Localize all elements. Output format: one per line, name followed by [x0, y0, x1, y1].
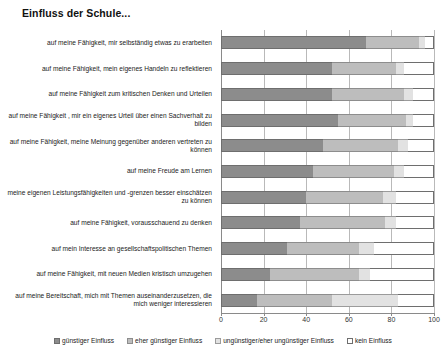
chart-title: Einfluss der Schule...	[22, 7, 130, 19]
bar-segment-series-3	[413, 88, 434, 101]
bar-segment-series-1	[332, 62, 396, 75]
bar-segment-series-3	[408, 139, 434, 152]
bar-segment-series-2	[394, 165, 405, 178]
legend-label: kein Einfluss	[355, 337, 392, 344]
bar-segment-series-0	[221, 62, 332, 75]
legend-label: günstiger Einfluss	[62, 337, 114, 344]
bar-segment-series-0	[221, 165, 313, 178]
stacked-bar[interactable]	[221, 294, 434, 307]
bar-segment-series-3	[398, 294, 434, 307]
bar-row: auf meine Fähigkeit, mir selbständig etw…	[0, 30, 434, 56]
bar-segment-series-3	[370, 268, 434, 281]
bar-segment-series-3	[404, 165, 434, 178]
legend-swatch-icon	[127, 338, 133, 344]
x-tick-label-60: 60	[345, 316, 353, 323]
legend-swatch-icon	[215, 338, 221, 344]
bar-segment-series-0	[221, 268, 270, 281]
bar-segment-series-2	[383, 191, 396, 204]
bar-row: auf meine Fähigkeit, mein eigenes Handel…	[0, 56, 434, 82]
bar-segment-series-2	[359, 268, 370, 281]
category-label: auf meine Freude am Lernen	[0, 167, 216, 175]
bar-container	[221, 216, 434, 229]
gridline-100	[434, 30, 435, 313]
bar-row: auf meine Fähigkeit zum kritischen Denke…	[0, 81, 434, 107]
category-label: auf meine Fähigkeit, mein eigenes Handel…	[0, 65, 216, 73]
stacked-bar[interactable]	[221, 268, 434, 281]
bar-segment-series-3	[413, 114, 434, 127]
legend-item-series-3[interactable]: kein Einfluss	[347, 337, 392, 344]
legend-swatch-icon	[347, 338, 353, 344]
bar-container	[221, 165, 434, 178]
category-label: auf meine Fähigkeit zum kritischen Denke…	[0, 90, 216, 98]
x-axis-line	[221, 313, 434, 314]
bar-segment-series-1	[306, 191, 383, 204]
x-tick-label-20: 20	[260, 316, 268, 323]
bar-segment-series-3	[425, 36, 434, 49]
bar-segment-series-1	[366, 36, 419, 49]
category-label: auf meine Fähigkeit, vorausschauend zu d…	[0, 219, 216, 227]
bar-container	[221, 36, 434, 49]
category-label: auf meine Fähigkeit, mir selbständig etw…	[0, 39, 216, 47]
stacked-bar[interactable]	[221, 216, 434, 229]
bar-row: meine eigenen Leistungsfähigkeiten und -…	[0, 184, 434, 210]
bar-container	[221, 88, 434, 101]
bar-row: auf meine Fähigkeit, mit neuen Medien kr…	[0, 261, 434, 287]
bar-segment-series-0	[221, 139, 323, 152]
x-tick-label-80: 80	[387, 316, 395, 323]
stacked-bar[interactable]	[221, 242, 434, 255]
chart-legend: günstiger Einflusseher günstiger Einflus…	[0, 337, 446, 344]
legend-label: eher günstiger Einfluss	[135, 337, 202, 344]
stacked-bar[interactable]	[221, 88, 434, 101]
chart-page: Einfluss der Schule... auf meine Fähigke…	[0, 0, 446, 360]
category-label: auf meine Fähigkeit , mir ein eigenes Ur…	[0, 112, 216, 128]
stacked-bar[interactable]	[221, 139, 434, 152]
bar-segment-series-3	[396, 191, 434, 204]
legend-swatch-icon	[54, 338, 60, 344]
category-label: meine eigenen Leistungsfähigkeiten und -…	[0, 189, 216, 205]
bar-rows: auf meine Fähigkeit, mir selbständig etw…	[0, 30, 434, 313]
bar-segment-series-2	[398, 139, 409, 152]
legend-item-series-0[interactable]: günstiger Einfluss	[54, 337, 114, 344]
stacked-bar[interactable]	[221, 165, 434, 178]
x-tick-label-100: 100	[428, 316, 440, 323]
bar-segment-series-0	[221, 294, 257, 307]
bar-segment-series-1	[313, 165, 394, 178]
bar-segment-series-2	[396, 62, 405, 75]
bar-row: auf mein Interesse an gesellschaftspolit…	[0, 236, 434, 262]
bar-segment-series-2	[332, 294, 398, 307]
bar-segment-series-1	[287, 242, 359, 255]
bar-row: auf meine Fähigkeit , mir ein eigenes Ur…	[0, 107, 434, 133]
bar-segment-series-1	[270, 268, 359, 281]
bar-segment-series-0	[221, 88, 332, 101]
bar-segment-series-0	[221, 242, 287, 255]
bar-row: auf meine Fähigkeit, vorausschauend zu d…	[0, 210, 434, 236]
bar-segment-series-1	[257, 294, 332, 307]
bar-segment-series-1	[300, 216, 385, 229]
bar-segment-series-0	[221, 36, 366, 49]
bar-segment-series-0	[221, 114, 338, 127]
stacked-bar[interactable]	[221, 36, 434, 49]
x-tick-labels: 020406080100	[0, 316, 446, 328]
bar-segment-series-2	[385, 216, 396, 229]
bar-container	[221, 294, 434, 307]
bar-container	[221, 139, 434, 152]
bar-segment-series-1	[338, 114, 406, 127]
bar-segment-series-3	[396, 216, 434, 229]
stacked-bar[interactable]	[221, 191, 434, 204]
legend-item-series-2[interactable]: ungünstiger/eher ungünstiger Einfluss	[215, 337, 334, 344]
category-label: auf mein Interesse an gesellschaftspolit…	[0, 245, 216, 253]
bar-segment-series-2	[404, 88, 413, 101]
bar-segment-series-0	[221, 191, 306, 204]
bar-segment-series-3	[404, 62, 434, 75]
category-label: auf meine Bereitschaft, mich mit Themen …	[0, 292, 216, 308]
stacked-bar[interactable]	[221, 62, 434, 75]
bar-row: auf meine Bereitschaft, mich mit Themen …	[0, 287, 434, 313]
bar-segment-series-1	[332, 88, 404, 101]
bar-container	[221, 242, 434, 255]
bar-row: auf meine Fähigkeit, meine Meinung gegen…	[0, 133, 434, 159]
legend-item-series-1[interactable]: eher günstiger Einfluss	[127, 337, 202, 344]
stacked-bar[interactable]	[221, 114, 434, 127]
bar-segment-series-0	[221, 216, 300, 229]
x-tick-label-40: 40	[302, 316, 310, 323]
x-tick-label-0: 0	[219, 316, 223, 323]
